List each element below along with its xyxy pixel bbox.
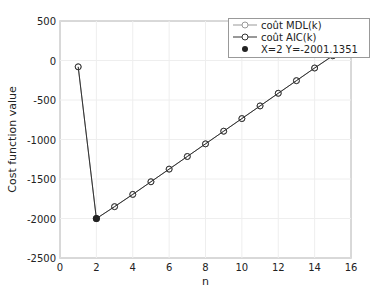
svg-text:16: 16: [345, 262, 358, 273]
svg-text:0: 0: [57, 262, 63, 273]
legend-item-mdl: coût MDL(k): [229, 19, 369, 31]
svg-text:10: 10: [236, 262, 249, 273]
svg-text:12: 12: [272, 262, 285, 273]
legend: coût MDL(k) coût AIC(k) X=2 Y=-2001.1351: [228, 18, 370, 58]
svg-text:Cost function value: Cost function value: [6, 86, 19, 193]
svg-text:500: 500: [37, 16, 56, 27]
svg-text:8: 8: [202, 262, 208, 273]
svg-text:2: 2: [93, 262, 99, 273]
legend-item-aic: coût AIC(k): [229, 31, 369, 43]
svg-text:4: 4: [130, 262, 136, 273]
chart: 02468101214165000-500-1000-1500-2000-250…: [0, 0, 371, 300]
svg-text:-2500: -2500: [27, 253, 56, 264]
svg-text:-2000: -2000: [27, 214, 56, 225]
svg-text:n: n: [202, 275, 209, 288]
svg-text:6: 6: [166, 262, 172, 273]
svg-text:-1500: -1500: [27, 174, 56, 185]
svg-text:-500: -500: [33, 95, 56, 106]
svg-text:-1000: -1000: [27, 135, 56, 146]
legend-item-datatip: X=2 Y=-2001.1351: [229, 43, 369, 55]
svg-text:0: 0: [50, 56, 56, 67]
svg-text:14: 14: [308, 262, 321, 273]
